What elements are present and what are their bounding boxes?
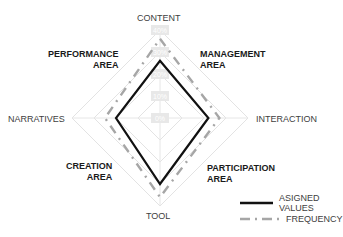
solid-line-icon <box>240 200 273 206</box>
legend-item-frequency: FREQUENCY <box>240 211 343 227</box>
area-label-participation: PARTICIPATION AREA <box>207 163 275 185</box>
axis-label-narratives: NARRATIVES <box>8 114 65 124</box>
area-label-line: AREA <box>207 174 275 185</box>
area-label-creation: CREATION AREA <box>66 161 112 183</box>
area-label-line: MANAGEMENT <box>200 49 266 60</box>
area-label-line: CREATION <box>66 161 112 172</box>
tick-label: 20% <box>153 71 167 78</box>
area-label-line: AREA <box>66 172 112 183</box>
tick-label: 10% <box>153 93 167 100</box>
legend-label: FREQUENCY <box>286 214 343 224</box>
axis-label-interaction: INTERACTION <box>256 114 317 124</box>
area-label-line: PERFORMANCE <box>48 49 119 60</box>
legend-label: ASIGNED VALUES <box>279 193 343 213</box>
area-label-line: AREA <box>48 60 119 71</box>
axis-label-tool: TOOL <box>146 211 170 221</box>
area-label-line: AREA <box>200 60 266 71</box>
dash-dot-line-icon <box>240 216 280 222</box>
tick-label: 30% <box>153 49 167 56</box>
area-label-management: MANAGEMENT AREA <box>200 49 266 71</box>
tick-label: 0% <box>155 115 165 122</box>
legend-item-assigned: ASIGNED VALUES <box>240 195 343 211</box>
axis-label-content: CONTENT <box>137 13 181 23</box>
legend: ASIGNED VALUES FREQUENCY <box>240 195 343 227</box>
area-label-performance: PERFORMANCE AREA <box>48 49 119 71</box>
tick-label: 40% <box>153 27 167 34</box>
area-label-line: PARTICIPATION <box>207 163 275 174</box>
